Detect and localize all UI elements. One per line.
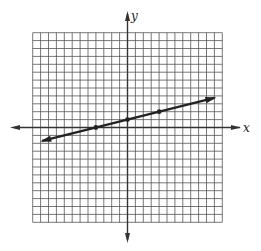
data-point [157,109,162,114]
y-axis-down-arrow-icon [125,233,130,243]
x-axis-right-arrow-icon [231,125,241,130]
coordinate-plane [0,0,261,251]
data-point [125,117,130,122]
x-axis-left-arrow-icon [10,125,20,130]
y-axis-up-arrow-icon [125,11,130,21]
line-left-arrow-icon [40,136,51,142]
y-axis-label: y [131,10,138,22]
data-point [94,125,99,130]
x-axis-label: x [243,122,250,134]
